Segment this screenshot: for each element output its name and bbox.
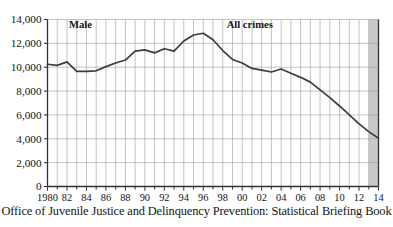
x-tick-label: 06 [295,192,305,203]
x-tick-label: 12 [354,192,364,203]
figure-caption: Office of Juvenile Justice and Delinquen… [0,204,393,219]
x-tick-label: 14 [373,192,384,203]
x-tick-label: 04 [276,192,287,203]
y-tick-label: 10,000 [11,61,42,73]
shaded-band [369,20,379,187]
line-chart: 02,0004,0006,0008,00010,00012,00014,0001… [0,0,393,227]
y-tick-label: 8,000 [16,85,42,97]
y-tick-label: 0 [36,180,42,192]
x-tick-label: 88 [120,192,130,203]
x-tick-label: 00 [237,192,247,203]
x-tick-label: 08 [315,192,325,203]
x-tick-label: 98 [218,192,228,203]
y-tick-label: 4,000 [16,133,42,145]
series-annotation: All crimes [227,19,273,30]
x-tick-label: 96 [198,192,208,203]
x-tick-label: 94 [179,192,190,203]
x-tick-label: 86 [101,192,111,203]
series-annotation: Male [69,19,92,30]
x-tick-label: 84 [81,192,92,203]
x-tick-label: 82 [62,192,72,203]
chart-figure: 02,0004,0006,0008,00010,00012,00014,0001… [0,0,393,227]
x-tick-label: 02 [256,192,266,203]
x-tick-label: 92 [159,192,169,203]
y-tick-label: 12,000 [11,37,42,49]
x-tick-label: 90 [140,192,150,203]
y-tick-label: 6,000 [16,109,42,121]
y-tick-label: 14,000 [11,13,42,25]
x-tick-label: 1980 [37,192,58,203]
x-tick-label: 10 [334,192,344,203]
y-tick-label: 2,000 [16,157,42,169]
